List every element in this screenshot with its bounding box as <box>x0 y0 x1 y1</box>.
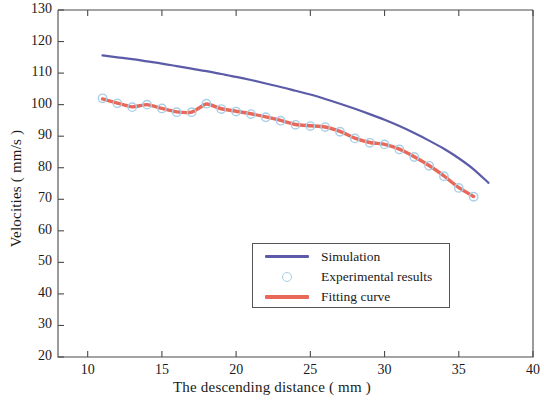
legend-line-icon-simulation <box>253 255 321 258</box>
x-tick-label: 15 <box>142 362 182 378</box>
y-axis-label: Velocities ( mm/s ) <box>8 89 25 289</box>
series-experimental-results <box>98 94 478 201</box>
x-tick-label: 20 <box>216 362 256 378</box>
y-tick-label: 130 <box>18 1 52 17</box>
legend-item-fitting-curve: Fitting curve <box>253 286 451 307</box>
series-fitting-curve <box>103 99 474 196</box>
legend-label-simulation: Simulation <box>321 249 380 265</box>
y-tick-label: 120 <box>18 33 52 49</box>
chart-legend: Simulation Experimental results Fitting … <box>252 243 450 308</box>
y-tick-label: 30 <box>18 316 52 332</box>
chart-figure: 2030405060708090100110120130 10152025303… <box>0 0 544 405</box>
x-tick-label: 30 <box>365 362 405 378</box>
legend-line-icon-fitting-curve <box>253 295 321 299</box>
plot-canvas <box>0 0 544 405</box>
y-tick-label: 20 <box>18 348 52 364</box>
circle-marker-icon <box>253 272 321 282</box>
x-tick-label: 10 <box>68 362 108 378</box>
legend-item-simulation: Simulation <box>253 246 451 267</box>
legend-item-experimental-results: Experimental results <box>253 266 451 287</box>
legend-label-fitting-curve: Fitting curve <box>321 289 390 305</box>
series-simulation <box>103 55 489 182</box>
x-tick-label: 35 <box>439 362 479 378</box>
legend-label-experimental-results: Experimental results <box>321 269 432 285</box>
x-tick-label: 25 <box>290 362 330 378</box>
x-tick-label: 40 <box>513 362 544 378</box>
y-tick-label: 110 <box>18 64 52 80</box>
x-axis-label: The descending distance ( mm ) <box>0 379 544 396</box>
